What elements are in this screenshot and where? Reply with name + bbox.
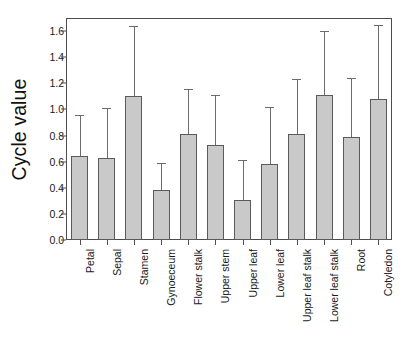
bar-chart-figure: Cycle value 0.00.20.40.60.81.01.21.41.6P…: [0, 0, 405, 343]
error-bar-cap: [129, 26, 138, 27]
y-axis-tick-mark: [61, 213, 66, 214]
y-axis-tick-mark: [61, 161, 66, 162]
x-axis-tick-label: Lower leaf stalk: [328, 249, 340, 322]
x-axis-tick-label: Cotyledon: [382, 249, 394, 296]
bar: [370, 99, 387, 240]
bar: [234, 200, 251, 240]
bar: [316, 95, 333, 240]
bar: [343, 137, 360, 240]
x-axis-tick-mark: [215, 240, 216, 245]
y-axis-tick-mark: [61, 109, 66, 110]
error-bar-cap: [347, 78, 356, 79]
bar: [125, 96, 142, 240]
error-bar-cap: [211, 95, 220, 96]
error-bar-stem: [324, 31, 325, 95]
error-bar-stem: [243, 160, 244, 199]
bar: [98, 158, 115, 240]
x-axis-tick-label: Gynoeceum: [165, 249, 177, 306]
y-axis-tick-mark: [61, 187, 66, 188]
x-axis-tick-mark: [270, 240, 271, 245]
error-bar-cap: [184, 89, 193, 90]
error-bar-cap: [292, 79, 301, 80]
bar: [71, 156, 88, 240]
error-bar-stem: [107, 108, 108, 158]
y-axis-tick-mark: [61, 83, 66, 84]
x-axis-tick-label: Upper stem: [219, 249, 231, 303]
x-axis-tick-mark: [134, 240, 135, 245]
x-axis-tick-mark: [188, 240, 189, 245]
bar: [288, 134, 305, 240]
y-axis-tick-mark: [61, 135, 66, 136]
error-bar-stem: [270, 107, 271, 164]
x-axis-tick-mark: [378, 240, 379, 245]
y-axis-tick-mark: [61, 240, 66, 241]
error-bar-stem: [161, 163, 162, 190]
x-axis-tick-mark: [324, 240, 325, 245]
error-bar-stem: [188, 89, 189, 135]
x-axis-tick-label: Root: [355, 249, 367, 271]
error-bar-stem: [378, 25, 379, 99]
y-axis-tick-mark: [61, 57, 66, 58]
x-axis-tick-mark: [107, 240, 108, 245]
error-bar-stem: [134, 26, 135, 97]
error-bar-cap: [102, 108, 111, 109]
error-bar-stem: [297, 79, 298, 134]
bar: [153, 190, 170, 240]
y-axis-tick-mark: [61, 31, 66, 32]
x-axis-tick-label: Upper leaf: [247, 249, 259, 297]
x-axis-tick-label: Stamen: [138, 249, 150, 285]
x-axis-tick-mark: [243, 240, 244, 245]
error-bar-cap: [238, 160, 247, 161]
y-axis-title-container: Cycle value: [0, 0, 40, 258]
error-bar-stem: [351, 78, 352, 137]
error-bar-stem: [215, 95, 216, 145]
x-axis-tick-mark: [297, 240, 298, 245]
x-axis-tick-mark: [161, 240, 162, 245]
error-bar-cap: [265, 107, 274, 108]
error-bar-cap: [157, 163, 166, 164]
error-bar-stem: [80, 115, 81, 157]
x-axis-tick-label: Lower leaf: [274, 249, 286, 297]
error-bar-cap: [75, 115, 84, 116]
error-bar-cap: [320, 31, 329, 32]
bar: [207, 145, 224, 240]
x-axis-tick-label: Upper leaf stalk: [301, 249, 313, 322]
x-axis-tick-label: Flower stalk: [192, 249, 204, 305]
x-axis-tick-label: Sepal: [111, 249, 123, 276]
y-axis-title: Cycle value: [9, 78, 32, 180]
x-axis-tick-mark: [351, 240, 352, 245]
bar: [261, 164, 278, 240]
x-axis-tick-label: Petal: [84, 249, 96, 273]
error-bar-cap: [374, 25, 383, 26]
x-axis-tick-mark: [80, 240, 81, 245]
bar: [180, 134, 197, 240]
